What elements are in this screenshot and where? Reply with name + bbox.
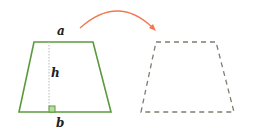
label-b: b — [56, 117, 64, 129]
diagram: a h b — [0, 0, 254, 134]
label-h: h — [51, 67, 60, 79]
label-a: a — [57, 25, 65, 37]
arrow-arc — [80, 11, 153, 28]
right-angle-mark — [49, 106, 55, 112]
solid-trapezoid — [19, 42, 111, 112]
dashed-trapezoid — [141, 42, 234, 112]
diagram-graphics — [0, 0, 254, 134]
